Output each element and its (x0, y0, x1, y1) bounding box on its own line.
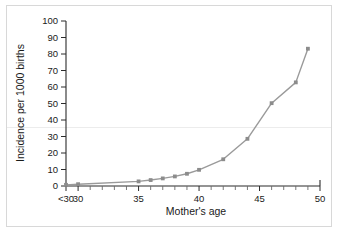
data-point-marker (270, 101, 274, 105)
y-tick-group (61, 21, 66, 186)
y-tick-label: 20 (47, 147, 58, 158)
x-tick-label: 50 (315, 193, 326, 204)
y-tick-label: 90 (47, 32, 58, 43)
x-tick-label-group: <303035404550 (58, 193, 325, 204)
data-point-marker (149, 178, 153, 182)
x-tick-label: 40 (194, 193, 205, 204)
data-point-marker (185, 172, 189, 176)
x-tick-label: <30 (58, 193, 74, 204)
y-tick-label: 50 (47, 98, 58, 109)
data-line-incidence (66, 49, 308, 185)
data-point-marker (294, 80, 298, 84)
x-tick-label: 35 (133, 193, 144, 204)
y-tick-label-group: 0102030405060708090100 (42, 15, 58, 191)
y-tick-label: 30 (47, 131, 58, 142)
data-point-marker (197, 168, 201, 172)
y-tick-label: 40 (47, 114, 58, 125)
data-point-marker (173, 175, 177, 179)
data-point-marker (306, 47, 310, 51)
y-tick-label: 0 (53, 180, 58, 191)
data-point-marker (137, 179, 141, 183)
x-axis-title: Mother's age (166, 205, 227, 217)
y-tick-label: 60 (47, 81, 58, 92)
y-tick-label: 70 (47, 65, 58, 76)
data-point-marker (161, 177, 165, 181)
x-tick-group (66, 186, 320, 191)
data-point-marker (76, 182, 80, 186)
data-point-marker (64, 183, 68, 187)
y-axis-title: Incidence per 1000 births (14, 44, 26, 162)
x-tick-label: 30 (73, 193, 84, 204)
line-chart: 0102030405060708090100 <303035404550 Inc… (0, 0, 338, 233)
data-point-marker (246, 137, 250, 141)
chart-figure: 0102030405060708090100 <303035404550 Inc… (0, 0, 338, 233)
y-tick-label: 80 (47, 48, 58, 59)
y-tick-label: 100 (42, 15, 58, 26)
data-markers (64, 47, 310, 187)
y-tick-label: 10 (47, 164, 58, 175)
x-tick-label: 45 (254, 193, 265, 204)
data-point-marker (221, 157, 225, 161)
